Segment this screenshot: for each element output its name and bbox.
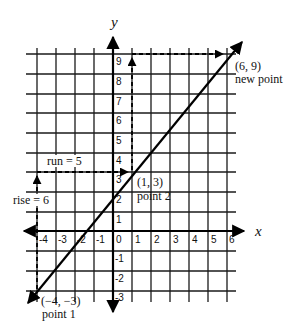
svg-text:-1: -1 xyxy=(96,234,105,245)
svg-text:-2: -2 xyxy=(77,234,86,245)
svg-text:6: 6 xyxy=(116,115,122,126)
point-1-label: point 1 xyxy=(42,307,76,321)
svg-text:-4: -4 xyxy=(39,234,48,245)
point-2-coords: (1, 3) xyxy=(137,175,163,189)
new-point-coords: (6, 9) xyxy=(235,59,261,73)
coordinate-plane: x y -4 -3 -2 -1 0 1 2 3 4 5 6 9 8 7 6 5 … xyxy=(0,0,300,334)
svg-text:0: 0 xyxy=(116,234,122,245)
x-axis-label: x xyxy=(254,223,262,239)
y-tick-labels: 9 8 7 6 5 4 3 2 1 -1 -2 -3 xyxy=(115,56,124,303)
svg-text:-1: -1 xyxy=(115,253,124,264)
rise-label: rise = 6 xyxy=(13,193,49,207)
svg-text:4: 4 xyxy=(116,155,122,166)
svg-text:-2: -2 xyxy=(115,273,124,284)
svg-text:1: 1 xyxy=(135,234,141,245)
svg-text:5: 5 xyxy=(116,135,122,146)
svg-text:3: 3 xyxy=(116,174,122,185)
point-1-coords: (−4, −3) xyxy=(41,294,81,308)
run-label: run = 5 xyxy=(47,154,82,168)
svg-text:6: 6 xyxy=(229,234,235,245)
y-axis-label: y xyxy=(109,14,118,30)
new-point-label: new point xyxy=(235,72,283,86)
svg-text:1: 1 xyxy=(116,214,122,225)
svg-text:9: 9 xyxy=(116,56,122,67)
x-tick-labels: -4 -3 -2 -1 0 1 2 3 4 5 6 xyxy=(39,234,235,245)
svg-text:4: 4 xyxy=(192,234,198,245)
svg-text:5: 5 xyxy=(211,234,217,245)
svg-text:-3: -3 xyxy=(115,292,124,303)
svg-text:7: 7 xyxy=(116,96,122,107)
svg-text:3: 3 xyxy=(173,234,179,245)
svg-text:-3: -3 xyxy=(58,234,67,245)
point-2-label: point 2 xyxy=(137,189,171,203)
svg-text:8: 8 xyxy=(116,76,122,87)
svg-text:2: 2 xyxy=(154,234,160,245)
